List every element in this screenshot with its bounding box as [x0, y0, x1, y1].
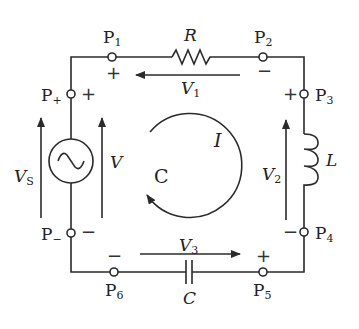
label-v2-main: V [262, 164, 274, 184]
sign-p2-minus: − [257, 62, 272, 80]
label-p5: P5 [253, 282, 271, 301]
node-p-plus [67, 90, 75, 98]
label-current: I [214, 131, 222, 150]
label-p-minus-sub: − [52, 233, 61, 246]
label-p2-sub: 2 [265, 36, 272, 49]
label-p1: P1 [103, 29, 121, 48]
sign-p3-plus: + [283, 85, 298, 103]
sign-p-plus: + [81, 85, 96, 103]
label-capacitor: C [183, 290, 196, 307]
label-vs: VS [14, 168, 34, 187]
label-p2-main: P [254, 27, 265, 47]
wire-bottom-corner [71, 237, 110, 272]
label-vs-main: V [14, 166, 26, 186]
sign-p4-minus: − [283, 223, 298, 241]
sign-p6-minus: − [107, 247, 122, 265]
label-p1-sub: 1 [114, 36, 121, 49]
label-v3-main: V [179, 235, 191, 255]
label-p1-main: P [103, 27, 114, 47]
label-resistor: R [184, 27, 197, 44]
label-p4-main: P [315, 223, 326, 243]
label-p-plus-main: P [41, 85, 52, 105]
label-v: V [110, 154, 122, 171]
label-p6-main: P [105, 280, 116, 300]
label-v3-sub: 3 [191, 244, 198, 257]
ac-source-sine [58, 153, 84, 168]
label-p-minus-main: P [41, 224, 52, 244]
inductor-symbol [304, 134, 318, 228]
label-p5-main: P [253, 280, 264, 300]
label-p6: P6 [105, 282, 123, 301]
node-p3 [300, 90, 308, 98]
resistor-symbol [172, 50, 259, 64]
label-inductor: L [326, 152, 337, 169]
label-p6-sub: 6 [116, 289, 123, 302]
node-p4 [300, 228, 308, 236]
label-p3: P3 [315, 87, 333, 106]
label-v1-sub: 1 [193, 87, 200, 100]
label-v1-main: V [181, 78, 193, 98]
label-v2-sub: 2 [274, 173, 281, 186]
label-p5-sub: 5 [264, 289, 271, 302]
circuit-drawing [0, 0, 359, 329]
label-v1: V1 [181, 80, 200, 99]
label-p-plus-sub: + [52, 94, 61, 107]
sign-p5-plus: + [256, 247, 271, 265]
node-p5 [259, 268, 267, 276]
label-p3-sub: 3 [326, 94, 333, 107]
sign-p-minus: − [81, 223, 96, 241]
label-p3-main: P [315, 85, 326, 105]
label-p2: P2 [254, 29, 272, 48]
circuit-diagram: P1 P2 P3 P4 P5 P6 P+ P− R L C V1 VS V V2… [0, 0, 359, 329]
label-p-plus: P+ [41, 87, 62, 106]
label-v2: V2 [262, 166, 281, 185]
label-vs-sub: S [26, 175, 34, 188]
sign-p1-plus: + [106, 64, 121, 82]
node-p6 [110, 268, 118, 276]
label-p4-sub: 4 [326, 232, 333, 245]
label-loop: C [154, 167, 169, 186]
label-v3: V3 [179, 237, 198, 256]
label-p-minus: P− [41, 226, 62, 245]
node-p-minus [67, 229, 75, 237]
label-p4: P4 [315, 225, 333, 244]
node-p1 [108, 53, 116, 61]
